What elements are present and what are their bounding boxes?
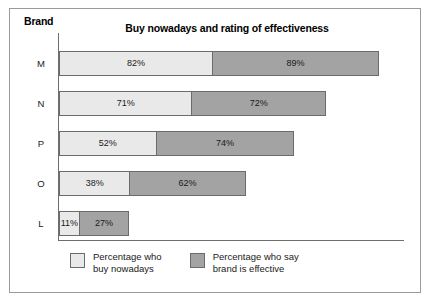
bar-segment-buy: 71% [59, 91, 192, 116]
chart-legend: Percentage who buy nowadaysPercentage wh… [70, 251, 400, 285]
bar-value-label: 62% [178, 178, 196, 188]
bar-value-label: 89% [286, 58, 304, 68]
bar-row: N71%72% [29, 83, 404, 123]
bar-segment-effective: 72% [191, 91, 326, 116]
bar-segment-buy: 82% [59, 51, 213, 76]
bar-row: M82%89% [29, 43, 404, 83]
category-label-o: O [29, 178, 53, 189]
bar-value-label: 72% [250, 98, 268, 108]
bar-segment-buy: 11% [59, 211, 80, 236]
legend-item: Percentage who buy nowadays [70, 251, 162, 275]
bar-row: P52%74% [29, 123, 404, 163]
bar-track: 71%72% [59, 91, 326, 116]
bar-segment-effective: 62% [129, 171, 245, 196]
bar-track: 82%89% [59, 51, 379, 76]
bar-value-label: 38% [86, 178, 104, 188]
bar-value-label: 74% [216, 138, 234, 148]
bar-segment-buy: 38% [59, 171, 130, 196]
bar-value-label: 27% [95, 218, 113, 228]
bar-track: 11%27% [59, 211, 129, 236]
bar-segment-effective: 89% [212, 51, 379, 76]
legend-item: Percentage who say brand is effective [190, 251, 299, 275]
bar-segment-effective: 74% [156, 131, 295, 156]
category-label-l: L [29, 218, 53, 229]
bar-track: 38%62% [59, 171, 246, 196]
chart-frame: Brand Buy nowadays and rating of effecti… [9, 8, 421, 293]
bar-value-label: 11% [61, 218, 78, 228]
bar-segment-effective: 27% [79, 211, 130, 236]
bar-segment-buy: 52% [59, 131, 157, 156]
category-label-m: M [29, 58, 53, 69]
plot-area: M82%89%N71%72%P52%74%O38%62%L11%27% [29, 33, 404, 241]
bar-value-label: 52% [99, 138, 117, 148]
legend-swatch-dark [190, 253, 205, 268]
bar-value-label: 71% [117, 98, 135, 108]
bar-track: 52%74% [59, 131, 294, 156]
bar-row: L11%27% [29, 203, 404, 243]
bar-row: O38%62% [29, 163, 404, 203]
bar-value-label: 82% [127, 58, 145, 68]
legend-label: Percentage who say brand is effective [213, 251, 299, 275]
legend-swatch-light [70, 253, 85, 268]
category-label-n: N [29, 98, 53, 109]
legend-label: Percentage who buy nowadays [93, 251, 162, 275]
category-label-p: P [29, 138, 53, 149]
